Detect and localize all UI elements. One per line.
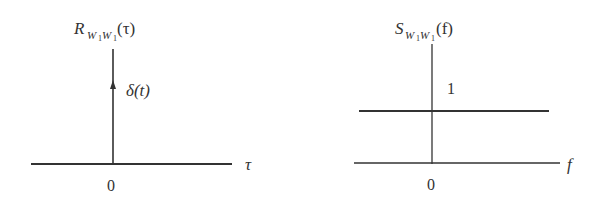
s-label-sub2-idx: 1 bbox=[431, 34, 435, 43]
level-label: 1 bbox=[447, 80, 455, 97]
figure: R W 1 W 1 (τ) δ(t) τ 0 S W 1 W 1 (f) 1 f… bbox=[0, 0, 614, 204]
psd-plot: S W 1 W 1 (f) 1 f 0 bbox=[354, 19, 574, 193]
impulse-arrow-icon bbox=[110, 80, 116, 89]
r-label-main: R bbox=[73, 19, 85, 38]
s-label-sub1: W bbox=[405, 29, 415, 41]
right-origin-label: 0 bbox=[427, 176, 435, 193]
tau-label: τ bbox=[245, 155, 252, 174]
r-label-sub1: W bbox=[87, 29, 97, 41]
f-label: f bbox=[567, 155, 574, 174]
left-origin-label: 0 bbox=[107, 177, 115, 194]
r-label-arg: (τ) bbox=[117, 19, 135, 38]
s-label-arg: (f) bbox=[436, 19, 453, 38]
autocorrelation-plot: R W 1 W 1 (τ) δ(t) τ 0 bbox=[31, 19, 252, 194]
s-label-sub2: W bbox=[420, 29, 430, 41]
s-label-main: S bbox=[395, 19, 404, 38]
r-label-sub2: W bbox=[102, 29, 112, 41]
impulse-label: δ(t) bbox=[126, 81, 150, 100]
